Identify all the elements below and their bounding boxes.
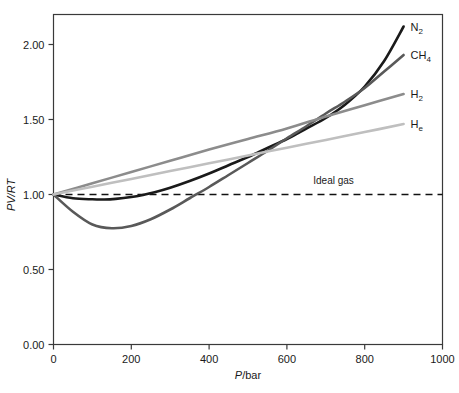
x-tick-label: 600 [278, 353, 296, 365]
series-label-text: H [411, 118, 419, 130]
series-label-text: CH [411, 49, 427, 61]
y-tick-label: 0.00 [23, 339, 44, 351]
y-tick-label: 1.50 [23, 114, 44, 126]
x-tick-label: 400 [200, 353, 218, 365]
series-label-subscript: 2 [419, 27, 424, 36]
series-label-text: N [411, 21, 419, 33]
x-tick-label: 1000 [430, 353, 454, 365]
y-tick-label: 2.00 [23, 39, 44, 51]
y-tick-label: 1.00 [23, 189, 44, 201]
x-axis-title-unit: /bar [242, 369, 261, 381]
x-tick-label: 800 [356, 353, 374, 365]
ideal-gas-annotation: Ideal gas [313, 175, 354, 186]
series-label-subscript: 4 [426, 55, 431, 64]
y-tick-label: 0.50 [23, 264, 44, 276]
y-axis-title: PV/RT [5, 178, 17, 211]
series-label-subscript: e [419, 124, 424, 133]
y-axis-title-unit: /RT [5, 178, 17, 198]
series-label-subscript: 2 [419, 94, 424, 103]
pv-rt-vs-pressure-chart: 0.000.501.001.502.00 02004006008001000 I… [0, 0, 459, 393]
x-axis-title: P/bar [235, 369, 262, 381]
x-tick-label: 0 [50, 353, 56, 365]
x-tick-label: 200 [122, 353, 140, 365]
series-label-text: H [411, 88, 419, 100]
